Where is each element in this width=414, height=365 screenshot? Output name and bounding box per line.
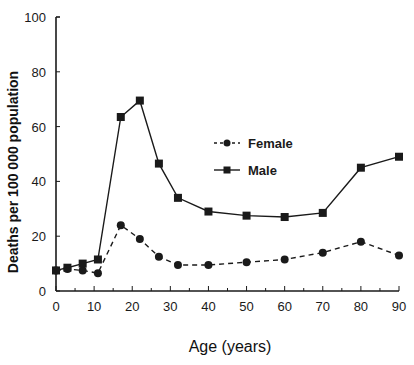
square-marker <box>94 255 102 263</box>
circle-marker <box>136 235 144 243</box>
series-male <box>52 97 403 275</box>
square-marker <box>281 213 289 221</box>
legend-label: Female <box>248 136 293 151</box>
circle-marker <box>281 255 289 263</box>
y-axis-title: Deaths per 100 000 population <box>5 71 21 273</box>
square-marker <box>52 266 60 274</box>
x-tick-label: 30 <box>163 299 177 314</box>
square-marker <box>204 208 212 216</box>
square-marker <box>395 153 403 161</box>
y-tick-label: 60 <box>32 120 46 135</box>
legend-item-female: Female <box>214 136 293 151</box>
x-tick-label: 50 <box>239 299 253 314</box>
circle-marker <box>174 261 182 269</box>
x-tick-label: 20 <box>125 299 139 314</box>
series-layer <box>52 97 403 278</box>
x-tick-label: 40 <box>201 299 215 314</box>
square-marker <box>63 264 71 272</box>
x-tick-label: 70 <box>316 299 330 314</box>
circle-marker <box>319 249 327 257</box>
square-marker <box>174 194 182 202</box>
x-tick-label: 10 <box>87 299 101 314</box>
y-tick-label: 20 <box>32 229 46 244</box>
square-marker <box>319 209 327 217</box>
y-tick-label: 80 <box>32 65 46 80</box>
square-marker <box>117 113 125 121</box>
y-tick-label: 40 <box>32 174 46 189</box>
circle-marker <box>204 261 212 269</box>
series-female <box>52 221 403 277</box>
series-line <box>56 225 399 273</box>
y-tick-label: 100 <box>24 10 46 25</box>
circle-marker <box>94 269 102 277</box>
legend-item-male: Male <box>214 163 277 178</box>
x-tick-label: 80 <box>354 299 368 314</box>
x-axis-title: Age (years) <box>189 338 272 355</box>
x-tick-label: 60 <box>277 299 291 314</box>
square-marker <box>224 167 231 174</box>
x-tick-label: 90 <box>392 299 406 314</box>
circle-marker <box>155 253 163 261</box>
circle-marker <box>357 238 365 246</box>
x-tick-label: 0 <box>52 299 59 314</box>
circle-marker <box>117 221 125 229</box>
legend: FemaleMale <box>214 136 293 178</box>
square-marker <box>243 212 251 220</box>
circle-marker <box>395 251 403 259</box>
legend-label: Male <box>248 163 277 178</box>
square-marker <box>357 164 365 172</box>
circle-marker <box>243 258 251 266</box>
square-marker <box>79 260 87 268</box>
circle-marker <box>224 140 231 147</box>
square-marker <box>155 160 163 168</box>
circle-marker <box>79 266 87 274</box>
y-tick-label: 0 <box>39 284 46 299</box>
square-marker <box>136 97 144 105</box>
line-chart: 0102030405060708090020406080100 FemaleMa… <box>0 0 414 365</box>
